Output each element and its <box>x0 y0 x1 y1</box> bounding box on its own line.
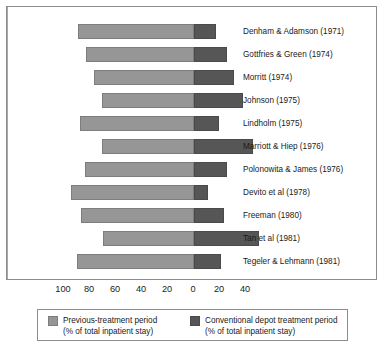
bar-segment-previous-treatment <box>85 162 194 177</box>
bar-segment-conventional-depot <box>194 93 243 108</box>
bar-row <box>7 208 376 223</box>
bar-segment-conventional-depot <box>194 162 227 177</box>
x-axis-tick-labels: 1008060402002040 <box>6 284 377 300</box>
bar-row <box>7 116 376 131</box>
category-label: Marriott & Hiep (1976) <box>243 139 324 154</box>
chart-legend: Previous-treatment period (% of total in… <box>37 309 348 341</box>
bar-row <box>7 231 376 246</box>
category-label: Denham & Adamson (1971) <box>243 24 344 39</box>
bar-segment-previous-treatment <box>71 185 195 200</box>
category-label: Polonowita & James (1976) <box>243 162 343 177</box>
bar-segment-conventional-depot <box>194 185 208 200</box>
bar-segment-previous-treatment <box>78 24 194 39</box>
legend-label-line2: (% of total inpatient stay) <box>63 327 153 336</box>
x-axis-tick: 0 <box>190 284 195 294</box>
bar-segment-previous-treatment <box>94 70 194 85</box>
bar-segment-previous-treatment <box>102 93 194 108</box>
plot-area: Denham & Adamson (1971)Gottfries & Green… <box>6 6 377 280</box>
bar-segment-previous-treatment <box>81 208 194 223</box>
legend-swatch-conventional-depot-icon <box>190 316 200 326</box>
category-label: Johnson (1975) <box>243 93 300 108</box>
bar-segment-previous-treatment <box>80 116 194 131</box>
x-axis-tick: 80 <box>84 284 94 294</box>
chart-figure: Denham & Adamson (1971)Gottfries & Green… <box>0 0 384 345</box>
legend-label-conventional-depot: Conventional depot treatment period (% o… <box>205 315 337 337</box>
legend-label-previous-treatment: Previous-treatment period (% of total in… <box>63 315 157 337</box>
bar-segment-conventional-depot <box>194 70 234 85</box>
bar-row <box>7 70 376 85</box>
bar-segment-conventional-depot <box>194 254 221 269</box>
x-axis-tick: 20 <box>214 284 224 294</box>
legend-swatch-previous-treatment-icon <box>48 316 58 326</box>
x-axis-tick: 40 <box>240 284 250 294</box>
category-label: Gottfries & Green (1974) <box>243 47 333 62</box>
x-axis-tick: 60 <box>110 284 120 294</box>
legend-item-previous-treatment: Previous-treatment period (% of total in… <box>48 315 157 337</box>
x-axis-tick: 20 <box>162 284 172 294</box>
category-label: Morritt (1974) <box>243 70 292 85</box>
bar-segment-conventional-depot <box>194 24 216 39</box>
x-axis-tick: 40 <box>136 284 146 294</box>
bar-row <box>7 185 376 200</box>
legend-item-conventional-depot: Conventional depot treatment period (% o… <box>190 315 337 337</box>
bar-segment-previous-treatment <box>86 47 194 62</box>
bar-segment-conventional-depot <box>194 208 224 223</box>
category-label: Tan et al (1981) <box>243 231 300 246</box>
category-label: Tegeler & Lehmann (1981) <box>243 254 340 269</box>
legend-label-line2: (% of total inpatient stay) <box>205 327 295 336</box>
bar-segment-conventional-depot <box>194 116 219 131</box>
bar-segment-previous-treatment <box>103 231 194 246</box>
x-axis-tick: 100 <box>55 284 70 294</box>
category-label: Freeman (1980) <box>243 208 302 223</box>
bar-segment-previous-treatment <box>77 254 194 269</box>
bar-row <box>7 93 376 108</box>
bar-segment-previous-treatment <box>102 139 194 154</box>
legend-label-line1: Previous-treatment period <box>63 316 157 325</box>
category-label: Lindholm (1975) <box>243 116 302 131</box>
category-label: Devito et al (1978) <box>243 185 310 200</box>
bar-segment-conventional-depot <box>194 47 227 62</box>
legend-label-line1: Conventional depot treatment period <box>205 316 337 325</box>
